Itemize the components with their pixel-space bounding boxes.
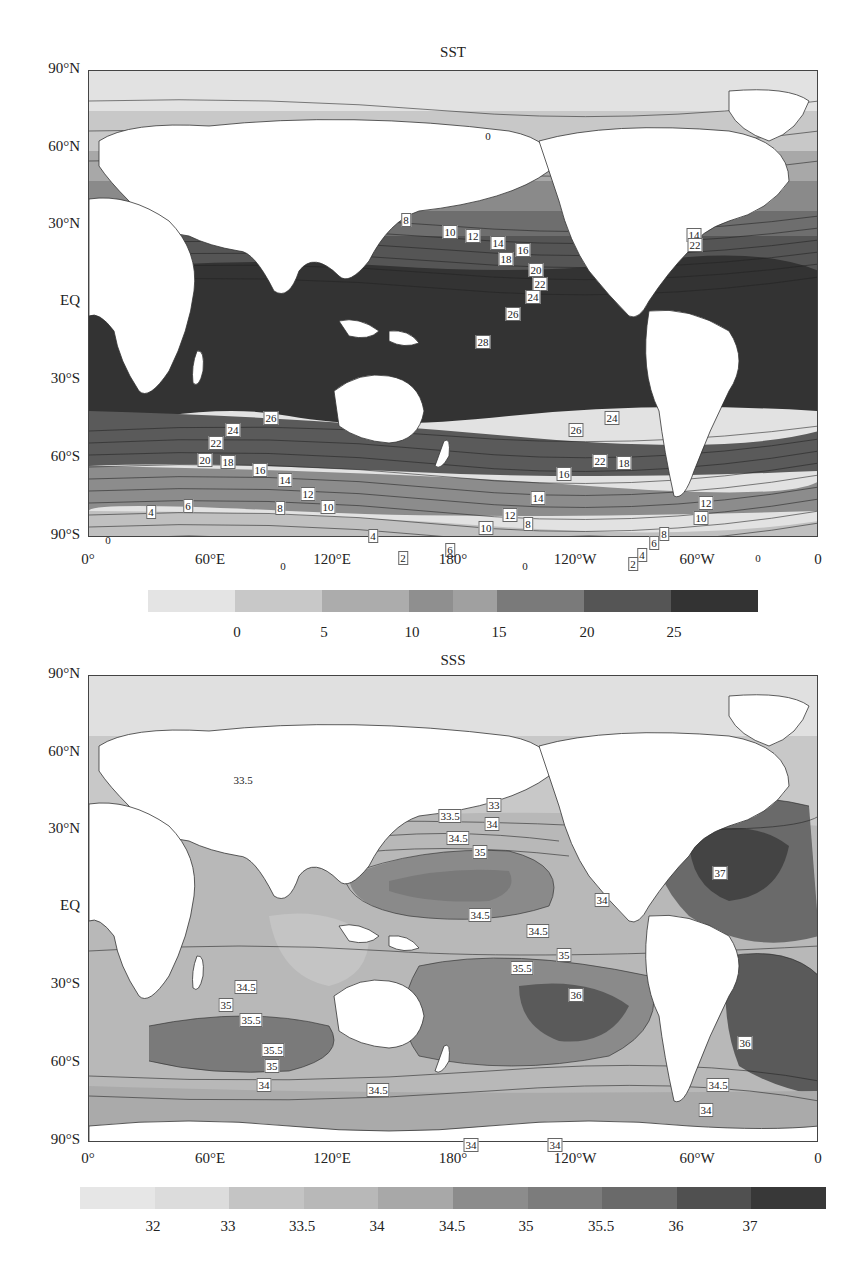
sst-map [88,70,818,537]
sss-x-tick-60w: 60°W [657,1150,737,1167]
sss-y-tick-90n: 90°N [20,665,80,682]
sst-colorbar-tick-25: 25 [649,624,699,641]
sst-colorbar-tick-10: 10 [387,624,437,641]
sst-colorbar-tick-0: 0 [212,624,262,641]
sss-x-tick-120e: 120°E [292,1150,372,1167]
sst-x-tick-120e: 120°E [292,551,372,568]
sst-colorbar-tick-5: 5 [299,624,349,641]
sss-x-tick-0: 0° [48,1150,128,1167]
sst-y-tick-eq: EQ [20,292,80,309]
sss-y-tick-30s: 30°S [20,975,80,992]
sst-colorbar-tick-20: 20 [562,624,612,641]
sss-y-tick-60s: 60°S [20,1053,80,1070]
sst-x-tick-180: 180° [413,551,493,568]
sss-colorbar-tick-36: 36 [651,1218,701,1235]
contour-label: 0 [754,552,762,564]
sss-y-tick-90s: 90°S [20,1131,80,1148]
sst-x-tick-0: 0° [48,551,128,568]
contour-label: 0 [521,560,529,572]
sst-y-tick-60s: 60°S [20,448,80,465]
sst-colorbar [148,590,758,612]
contour-label: 2 [398,551,408,565]
sss-colorbar-tick-33-5: 33.5 [277,1218,327,1235]
sss-colorbar-tick-37: 37 [725,1218,775,1235]
sss-x-tick-60e: 60°E [170,1150,250,1167]
sst-map-graphic [89,71,818,537]
sst-y-tick-30s: 30°S [20,370,80,387]
sss-colorbar-tick-34-5: 34.5 [427,1218,477,1235]
sst-title: SST [393,44,513,61]
sss-map-graphic [89,676,818,1142]
contour-label: 0 [279,560,287,572]
sst-x-tick-120w: 120°W [535,551,615,568]
sss-x-tick-180: 180° [413,1150,493,1167]
sss-y-tick-60n: 60°N [20,743,80,760]
sss-colorbar-tick-34: 34 [352,1218,402,1235]
sst-x-tick-60e: 60°E [170,551,250,568]
sss-x-tick-120w: 120°W [535,1150,615,1167]
sss-map [88,675,818,1142]
sss-y-tick-30n: 30°N [20,820,80,837]
sst-x-tick-0-end: 0 [778,551,858,568]
sss-x-tick-0-end: 0 [778,1150,858,1167]
sst-y-tick-90n: 90°N [20,60,80,77]
contour-label: 4 [637,548,647,562]
sss-colorbar-tick-33: 33 [203,1218,253,1235]
sss-colorbar-tick-35: 35 [501,1218,551,1235]
sss-title: SSS [393,652,513,669]
contour-label: 6 [649,536,659,550]
sss-colorbar-tick-32: 32 [128,1218,178,1235]
sss-y-tick-eq: EQ [20,897,80,914]
sss-colorbar [80,1187,826,1209]
sst-x-tick-60w: 60°W [657,551,737,568]
sss-colorbar-tick-35-5: 35.5 [576,1218,626,1235]
sst-colorbar-tick-15: 15 [474,624,524,641]
contour-label: 2 [628,557,638,571]
sst-y-tick-90s: 90°S [20,526,80,543]
sst-y-tick-30n: 30°N [20,215,80,232]
sst-y-tick-60n: 60°N [20,138,80,155]
